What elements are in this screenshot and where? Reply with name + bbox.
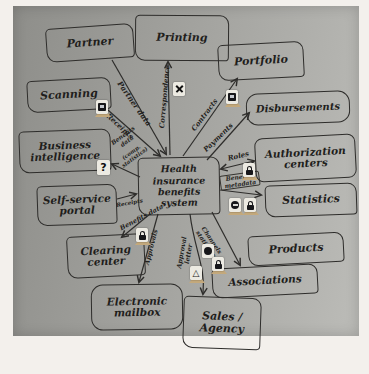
photo-frame: Partner Printing Portfolio Scanning Disb… bbox=[0, 0, 369, 374]
node-printing: Printing bbox=[135, 15, 229, 62]
node-self-service-portal: Self-service portal bbox=[36, 184, 117, 227]
node-sales-agency-label: Sales / Agency bbox=[184, 309, 261, 337]
node-center-health-insurance-benefits-system: Health insurance benefits system bbox=[138, 156, 221, 215]
node-products-label: Products bbox=[266, 241, 326, 258]
edge-statistics bbox=[220, 190, 261, 195]
lock-icon bbox=[243, 163, 257, 179]
node-sales-agency: Sales / Agency bbox=[182, 296, 262, 351]
node-associations-label: Associations bbox=[226, 272, 304, 289]
node-printing-label: Printing bbox=[154, 31, 209, 45]
node-electronic-mailbox-label: Electronic mailbox bbox=[92, 294, 182, 320]
node-statistics: Statistics bbox=[264, 182, 357, 217]
node-authorization-centers-label: Authorization centers bbox=[255, 143, 355, 173]
node-portfolio-label: Portfolio bbox=[232, 53, 291, 70]
node-products: Products bbox=[247, 232, 344, 267]
question-icon: ? bbox=[97, 160, 111, 176]
lock-icon bbox=[136, 228, 150, 244]
node-associations: Associations bbox=[211, 263, 318, 299]
node-authorization-centers: Authorization centers bbox=[254, 133, 357, 182]
node-scanning-label: Scanning bbox=[38, 86, 100, 103]
stop-icon bbox=[229, 198, 243, 214]
node-partner: Partner bbox=[45, 23, 135, 63]
node-disbursements: Disbursements bbox=[245, 90, 350, 126]
node-clearing-center-label: Clearing center bbox=[67, 242, 144, 271]
node-partner-label: Partner bbox=[64, 34, 116, 51]
node-disbursements-label: Disbursements bbox=[254, 100, 342, 116]
x-icon bbox=[173, 82, 187, 98]
image-icon bbox=[96, 100, 110, 116]
node-portfolio: Portfolio bbox=[217, 41, 305, 81]
image-icon bbox=[226, 90, 240, 106]
node-self-service-portal-label: Self-service portal bbox=[38, 191, 117, 218]
node-electronic-mailbox: Electronic mailbox bbox=[91, 283, 184, 331]
lock-icon bbox=[212, 257, 226, 273]
warning-icon: △ bbox=[190, 266, 204, 282]
lock-icon bbox=[244, 198, 258, 214]
node-statistics-label: Statistics bbox=[280, 192, 342, 208]
node-center-label: Health insurance benefits system bbox=[139, 162, 220, 211]
